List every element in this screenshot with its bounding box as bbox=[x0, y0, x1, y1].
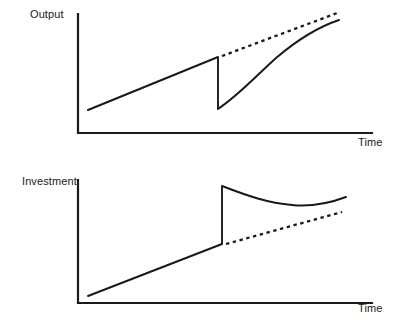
chart-panel-investment: Investment Time bbox=[0, 163, 404, 326]
investment-counterfactual-dotted-line bbox=[226, 212, 342, 244]
figure-root: Output Time Investment Time bbox=[0, 0, 404, 326]
output-counterfactual-dotted-line bbox=[222, 12, 340, 56]
investment-y-axis-label: Investment bbox=[22, 175, 77, 188]
output-pre-shock-line bbox=[88, 57, 218, 110]
output-x-axis-label: Time bbox=[358, 136, 382, 149]
chart-panel-output: Output Time bbox=[0, 0, 404, 163]
output-chart-svg bbox=[0, 0, 404, 163]
investment-axes bbox=[78, 180, 372, 303]
investment-pre-shock-line bbox=[88, 244, 222, 296]
output-y-axis-label: Output bbox=[30, 8, 64, 21]
output-axes bbox=[78, 14, 372, 133]
investment-decay-rebound-curve bbox=[222, 186, 346, 206]
output-recovery-curve bbox=[218, 20, 339, 109]
investment-x-axis-label: Time bbox=[358, 302, 382, 315]
